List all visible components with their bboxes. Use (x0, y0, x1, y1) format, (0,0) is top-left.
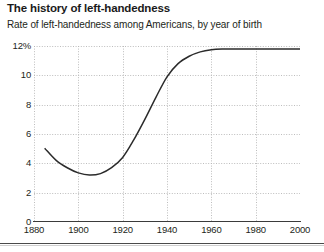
footer-divider (0, 243, 324, 244)
x-axis-line (33, 221, 301, 222)
y-tick-label-12: 12% (3, 41, 31, 51)
vertical-gridlines (35, 46, 301, 222)
x-tick-label-1920: 1920 (106, 224, 140, 235)
x-tick-label-1900: 1900 (61, 224, 95, 235)
line-chart-svg (34, 46, 300, 222)
chart-figure: The history of left-handedness Rate of l… (0, 0, 324, 252)
y-tick-label-4: 4 (3, 158, 31, 168)
y-tick-label-10: 10 (3, 70, 31, 80)
plot-area (34, 46, 300, 222)
x-tick-label-1940: 1940 (150, 224, 184, 235)
x-tick-label-1980: 1980 (239, 224, 273, 235)
x-tick-label-2000: 2000 (283, 224, 317, 235)
y-tick-label-2: 2 (3, 188, 31, 198)
footer-divider-light (0, 245, 324, 246)
y-tick-label-6: 6 (3, 129, 31, 139)
y-tick-label-8: 8 (3, 100, 31, 110)
page-title: The history of left-handedness (7, 1, 170, 15)
data-line-left-handedness (45, 49, 300, 175)
x-tick-label-1960: 1960 (194, 224, 228, 235)
y-axis-labels: 024681012% (0, 0, 31, 252)
chart-subtitle: Rate of left-handedness among Americans,… (7, 18, 262, 31)
x-tick-label-1880: 1880 (17, 224, 51, 235)
